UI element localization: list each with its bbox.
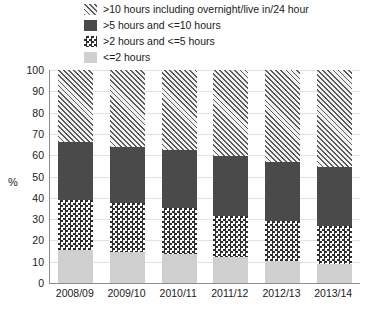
bar-segment bbox=[58, 200, 93, 250]
x-axis-tick-2010-11: 2010/11 bbox=[152, 286, 204, 304]
x-axis-tick-2011-12: 2011/12 bbox=[204, 286, 256, 304]
x-axis-tick-labels: 2008/092009/102010/112011/122012/132013/… bbox=[49, 286, 359, 304]
bar-segment bbox=[265, 261, 300, 283]
legend-swatch-light-gray-icon bbox=[84, 52, 97, 63]
y-axis-tick-50: 50 bbox=[18, 172, 44, 182]
bar-segment bbox=[58, 250, 93, 283]
y-axis-tick-90: 90 bbox=[18, 86, 44, 96]
y-axis-tick-70: 70 bbox=[18, 129, 44, 139]
bar-2009-10 bbox=[110, 70, 145, 283]
bar-segment bbox=[317, 167, 352, 226]
bar-segment bbox=[162, 150, 197, 209]
y-axis-tick-10: 10 bbox=[18, 257, 44, 267]
bar-segment bbox=[110, 70, 145, 147]
x-axis-tick-2012-13: 2012/13 bbox=[256, 286, 308, 304]
bar-segment bbox=[162, 208, 197, 254]
bar-segment bbox=[213, 70, 248, 156]
bar-segment bbox=[110, 252, 145, 283]
legend-item-2: >2 hours and <=5 hours bbox=[84, 34, 215, 49]
bar-2013-14 bbox=[317, 70, 352, 283]
bar-group bbox=[50, 70, 360, 283]
bar-segment bbox=[58, 142, 93, 200]
x-axis-tick-2009-10: 2009/10 bbox=[101, 286, 153, 304]
bar-segment bbox=[110, 147, 145, 203]
y-axis-tick-100: 100 bbox=[18, 65, 44, 75]
bar-segment bbox=[213, 156, 248, 216]
stacked-bar-chart: >10 hours including overnight/live in/24… bbox=[0, 0, 369, 315]
bar-segment bbox=[110, 203, 145, 252]
bar-2011-12 bbox=[213, 70, 248, 283]
y-axis-tick-40: 40 bbox=[18, 193, 44, 203]
legend-item-1: >5 hours and <=10 hours bbox=[84, 18, 221, 33]
bar-segment bbox=[162, 254, 197, 283]
x-axis-tick-2008-09: 2008/09 bbox=[49, 286, 101, 304]
x-axis-tick-2013-14: 2013/14 bbox=[307, 286, 359, 304]
plot-area bbox=[49, 70, 360, 284]
bar-2012-13 bbox=[265, 70, 300, 283]
legend-item-3: <=2 hours bbox=[84, 50, 150, 65]
bar-segment bbox=[317, 264, 352, 283]
y-axis-tick-20: 20 bbox=[18, 235, 44, 245]
legend-label-2: >2 hours and <=5 hours bbox=[103, 36, 215, 47]
bar-2008-09 bbox=[58, 70, 93, 283]
bar-segment bbox=[317, 70, 352, 167]
y-axis-tick-60: 60 bbox=[18, 150, 44, 160]
bar-segment bbox=[265, 221, 300, 260]
legend-swatch-checkerboard-icon bbox=[84, 36, 97, 47]
plot-wrapper: % 1009080706050403020100 2008/092009/102… bbox=[0, 64, 369, 315]
legend-label-3: <=2 hours bbox=[103, 52, 150, 63]
y-axis-tick-labels: 1009080706050403020100 bbox=[18, 64, 44, 283]
legend-swatch-hatch-icon bbox=[84, 4, 97, 15]
bar-segment bbox=[58, 70, 93, 142]
y-axis-title: % bbox=[8, 176, 18, 188]
bar-segment bbox=[317, 226, 352, 264]
legend-label-1: >5 hours and <=10 hours bbox=[103, 20, 221, 31]
bar-segment bbox=[162, 70, 197, 150]
bar-2010-11 bbox=[162, 70, 197, 283]
bar-segment bbox=[265, 162, 300, 222]
y-axis-tick-80: 80 bbox=[18, 108, 44, 118]
chart-legend: >10 hours including overnight/live in/24… bbox=[0, 0, 369, 64]
y-axis-tick-0: 0 bbox=[18, 278, 44, 288]
bar-segment bbox=[265, 70, 300, 162]
y-axis-tick-30: 30 bbox=[18, 214, 44, 224]
legend-swatch-solid-dark-icon bbox=[84, 20, 97, 31]
legend-item-0: >10 hours including overnight/live in/24… bbox=[84, 2, 309, 17]
bar-segment bbox=[213, 257, 248, 283]
bar-segment bbox=[213, 216, 248, 258]
legend-label-0: >10 hours including overnight/live in/24… bbox=[103, 4, 309, 15]
